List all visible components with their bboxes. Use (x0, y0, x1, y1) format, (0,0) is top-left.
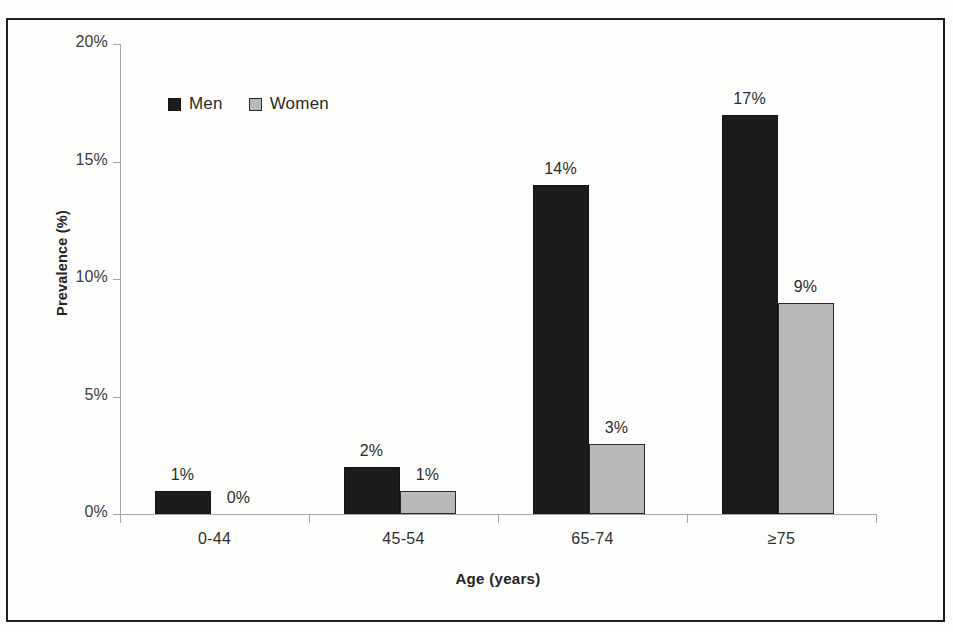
y-tick-label-wrap: 15% (30, 151, 108, 171)
chart-figure: 0%5%10%15%20% Prevalence (%) Age (years)… (0, 0, 953, 632)
bar-men (722, 115, 778, 515)
bar-value-label-women: 1% (398, 466, 458, 484)
x-category-label: 0-44 (120, 530, 309, 548)
y-tick-label: 20% (38, 33, 108, 51)
bar-value-label-men: 1% (153, 466, 213, 484)
bar-value-label-women: 0% (209, 489, 269, 507)
bar-men (344, 467, 400, 514)
x-category-label: 65-74 (498, 530, 687, 548)
bar-men (155, 491, 211, 515)
y-tick-label-wrap: 0% (30, 503, 108, 523)
y-tick-label-wrap: 20% (30, 33, 108, 53)
y-tick-label: 5% (38, 386, 108, 404)
y-axis-title: Prevalence (%) (54, 183, 70, 343)
x-category-label: ≥75 (687, 530, 876, 548)
bar-value-label-men: 17% (720, 90, 780, 108)
legend-swatch-men-icon (168, 98, 181, 111)
legend: Men Women (168, 94, 329, 114)
x-tick-mark (309, 514, 310, 523)
bar-men (533, 185, 589, 514)
bar-women (778, 303, 834, 515)
x-tick-mark (876, 514, 877, 523)
bar-value-label-women: 3% (587, 419, 647, 437)
y-tick-label: 15% (38, 151, 108, 169)
y-tick-label: 0% (38, 503, 108, 521)
x-tick-mark (687, 514, 688, 523)
x-tick-mark (498, 514, 499, 523)
legend-entry-men: Men (168, 94, 223, 114)
y-tick-label-wrap: 5% (30, 386, 108, 406)
legend-label-women: Women (270, 94, 329, 114)
y-tick-label: 10% (38, 268, 108, 286)
x-tick-mark (120, 514, 121, 523)
x-axis-title: Age (years) (120, 570, 876, 587)
bar-women (589, 444, 645, 515)
legend-entry-women: Women (249, 94, 329, 114)
legend-label-men: Men (189, 94, 223, 114)
x-category-label: 45-54 (309, 530, 498, 548)
bar-value-label-women: 9% (776, 278, 836, 296)
bar-value-label-men: 2% (342, 442, 402, 460)
plot-area: 1%0%2%1%14%3%17%9% (120, 44, 876, 514)
legend-swatch-women-icon (249, 98, 262, 111)
bar-women (400, 491, 456, 515)
bar-value-label-men: 14% (531, 160, 591, 178)
